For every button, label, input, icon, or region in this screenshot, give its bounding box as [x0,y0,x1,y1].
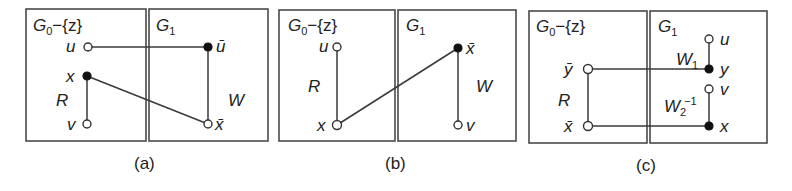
node-u [705,35,713,43]
node-ybar [584,65,593,74]
label-v: v [466,116,476,135]
label-v: v [720,80,730,99]
node-v [705,85,713,93]
caption-b: (b) [385,154,406,173]
label-x: x [316,116,326,135]
diagram-canvas: G0−{z} G1 u x v ū x̄ R W (a) G0−{z} G1 [0,0,792,191]
label-xbar: x̄ [563,117,573,136]
node-xbar [454,44,462,52]
caption-a: (a) [134,154,155,173]
panel-c: G0−{z} G1 ȳ x̄ u y v x R W1 W2−1 (c) [529,11,767,175]
label-xbar: x̄ [465,39,475,58]
label-u: u [319,37,329,56]
path-label-r: R [558,91,570,110]
caption-c: (c) [636,156,656,175]
label-x: x [719,117,729,136]
path-label-w2-inverse: W2−1 [664,95,697,118]
node-x [705,122,713,130]
node-xbar [584,122,593,131]
node-y [705,65,713,73]
label-ubar: ū [216,37,226,56]
edge-x-xbar [87,76,208,124]
node-v [83,120,91,128]
label-u: u [66,37,76,56]
panel-a: G0−{z} G1 u x v ū x̄ R W (a) [26,9,268,173]
node-x [333,121,342,130]
box-g0-title: G0−{z} [536,17,585,38]
path-label-r: R [56,91,68,110]
node-x [83,72,91,80]
path-label-r: R [308,77,320,96]
path-label-w1: W1 [676,50,698,71]
node-u [84,43,92,51]
node-xbar [204,120,212,128]
label-x: x [65,67,75,86]
label-ybar: ȳ [563,60,574,79]
path-label-w: W [476,77,494,96]
node-v [454,121,462,129]
node-u [333,43,341,51]
box-g0-title: G0−{z} [33,16,82,37]
box-g1-title: G1 [658,17,677,38]
label-xbar: x̄ [214,115,224,134]
box-g1-title: G1 [156,16,175,37]
panel-b: G0−{z} G1 u x x̄ v R W (b) [279,10,516,173]
node-ubar [204,43,212,51]
box-g0-title: G0−{z} [288,16,337,37]
label-u: u [720,30,730,49]
label-y: y [719,60,730,79]
box-g1-title: G1 [406,16,425,37]
label-v: v [67,115,77,134]
path-label-w: W [228,91,246,110]
